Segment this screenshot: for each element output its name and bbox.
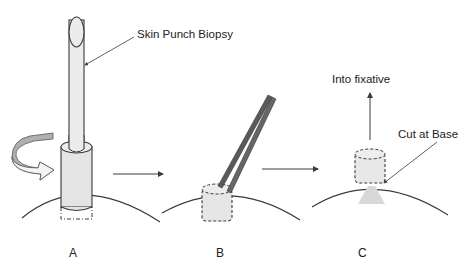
rotation-arrow-icon <box>12 133 54 180</box>
cut-callout-label: Cut at Base <box>398 128 458 140</box>
tissue-core-c <box>355 149 385 183</box>
cut-callout-line <box>384 142 437 183</box>
panel-b: B <box>162 95 300 260</box>
biopsy-diagram: Skin Punch Biopsy B <box>0 0 476 271</box>
panel-label-b: B <box>216 246 224 260</box>
fixative-label: Into fixative <box>332 73 390 85</box>
panel-c: Into fixative Cut at Base C <box>312 73 458 260</box>
punch-callout-label: Skin Punch Biopsy <box>137 28 233 40</box>
punch-tool-icon <box>61 17 92 219</box>
panel-label-a: A <box>69 246 77 260</box>
forceps-icon <box>218 95 276 193</box>
panel-a: Skin Punch Biopsy <box>12 17 233 222</box>
panel-label-c: C <box>358 246 367 260</box>
punch-callout-line <box>85 37 134 65</box>
